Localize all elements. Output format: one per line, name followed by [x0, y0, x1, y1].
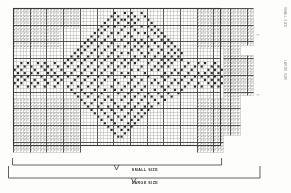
right-edge-caption-small: SMALL SIZE — [283, 7, 287, 27]
small-size-label: SMALL SIZE — [105, 167, 185, 172]
pattern-chart-page: SMALL SIZE LARGE SIZE SMALL SIZE LARGE S… — [0, 0, 291, 193]
filet-crochet-grid-chart — [0, 0, 291, 193]
right-edge-caption-large: LARGE SIZE — [283, 60, 287, 81]
large-size-label: LARGE SIZE — [105, 180, 185, 185]
